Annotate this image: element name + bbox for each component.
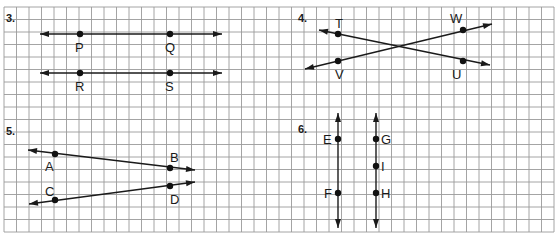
point-label-Q: Q [165, 40, 175, 55]
problem-number: 5. [6, 125, 15, 137]
point-label-U: U [452, 67, 461, 82]
arrowhead-icon [213, 70, 222, 76]
point-label-B: B [170, 150, 179, 165]
problem-6: 6.EFGIH [298, 113, 391, 228]
problem-4: 4.TWVU [298, 11, 492, 82]
point-label-E: E [323, 132, 332, 147]
point-label-T: T [335, 16, 343, 31]
point-Q [167, 31, 173, 37]
point-T [335, 31, 341, 37]
point-label-W: W [450, 11, 463, 26]
worksheet-grid: 3.PQRS4.TWVU5.ABCD6.EFGIH [0, 0, 555, 237]
point-V [335, 58, 341, 64]
point-A [52, 151, 58, 157]
point-label-G: G [381, 132, 391, 147]
point-G [373, 136, 379, 142]
point-label-R: R [75, 79, 84, 94]
arrowhead-icon [335, 219, 341, 228]
arrowhead-icon [186, 180, 195, 186]
point-label-D: D [170, 192, 179, 207]
point-R [77, 70, 83, 76]
point-I [373, 163, 379, 169]
arrowhead-icon [373, 113, 379, 122]
problem-number: 4. [298, 12, 307, 24]
point-label-V: V [335, 67, 344, 82]
point-P [77, 31, 83, 37]
point-label-S: S [165, 79, 174, 94]
point-W [460, 27, 466, 33]
arrowhead-icon [373, 219, 379, 228]
point-F [335, 190, 341, 196]
point-H [373, 190, 379, 196]
arrowhead-icon [186, 166, 195, 172]
problem-number: 6. [298, 123, 307, 135]
point-S [167, 70, 173, 76]
point-label-I: I [381, 159, 385, 174]
point-E [335, 136, 341, 142]
arrowhead-icon [483, 23, 492, 29]
point-label-H: H [381, 186, 390, 201]
point-U [460, 58, 466, 64]
point-label-P: P [75, 40, 84, 55]
point-label-C: C [45, 184, 54, 199]
point-D [167, 183, 173, 189]
arrowhead-icon [29, 200, 38, 206]
point-B [167, 165, 173, 171]
problem-number: 3. [6, 12, 15, 24]
point-label-A: A [45, 159, 54, 174]
grid-lines [4, 7, 554, 232]
point-label-F: F [324, 186, 332, 201]
arrowhead-icon [335, 113, 341, 122]
graph-paper: 3.PQRS4.TWVU5.ABCD6.EFGIH [0, 0, 555, 237]
arrowhead-icon [305, 64, 314, 70]
